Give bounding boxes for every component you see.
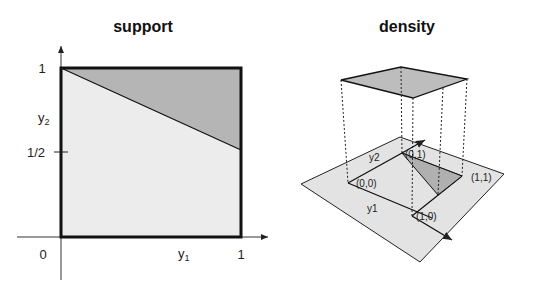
origin-label: 0 bbox=[39, 247, 46, 262]
y1-label: y1 bbox=[178, 246, 190, 263]
y-tick-1: 1 bbox=[38, 61, 45, 76]
density-panel: density y2 y1 (0,0) (0,1) (1,1) (1,0) bbox=[301, 18, 504, 262]
corner-01-label: (0,1) bbox=[405, 149, 426, 160]
y2-label: y2 bbox=[38, 110, 50, 127]
density-title: density bbox=[379, 18, 435, 35]
support-title: support bbox=[113, 18, 173, 35]
corner-10-label: (1,0) bbox=[416, 211, 437, 222]
corner-11-label: (1,1) bbox=[471, 172, 492, 183]
y2-plane-label: y2 bbox=[369, 152, 380, 163]
y1-plane-label: y1 bbox=[367, 203, 378, 214]
density-top-surface bbox=[341, 67, 467, 98]
corner-00-label: (0,0) bbox=[356, 178, 377, 189]
support-panel: support 1 1/2 y2 0 y1 1 bbox=[17, 18, 268, 280]
base-plane bbox=[301, 137, 504, 262]
diagram-canvas: support 1 1/2 y2 0 y1 1 density bbox=[0, 0, 533, 290]
y-tick-half: 1/2 bbox=[27, 145, 45, 160]
x-tick-1: 1 bbox=[237, 247, 244, 262]
